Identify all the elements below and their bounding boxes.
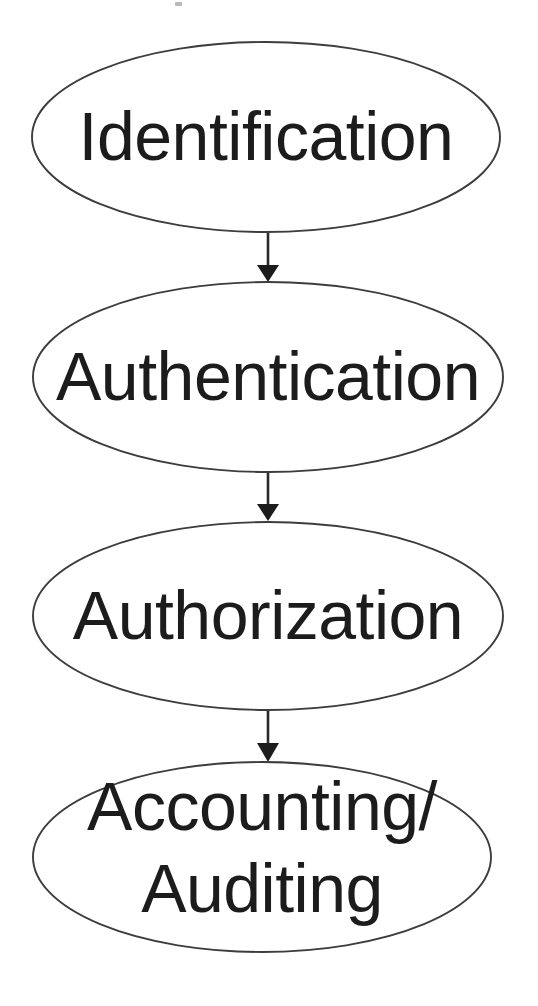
diagram-canvas: Identification Authentication Authorizat… (0, 0, 538, 1006)
node-identification[interactable]: Identification (32, 42, 500, 232)
scan-speck-artifact (175, 2, 182, 6)
node-authorization-label: Authorization (73, 577, 463, 653)
flowchart-svg: Identification Authentication Authorizat… (0, 0, 538, 1006)
node-authentication-label: Authentication (56, 338, 480, 414)
node-authorization[interactable]: Authorization (33, 522, 503, 710)
node-accounting-auditing-label-line1: Accounting/ (87, 768, 437, 844)
node-accounting-auditing-label-line2: Auditing (141, 850, 383, 926)
node-authentication[interactable]: Authentication (33, 282, 503, 472)
node-accounting-auditing[interactable]: Accounting/ Auditing (33, 762, 491, 952)
node-identification-label: Identification (79, 98, 454, 174)
